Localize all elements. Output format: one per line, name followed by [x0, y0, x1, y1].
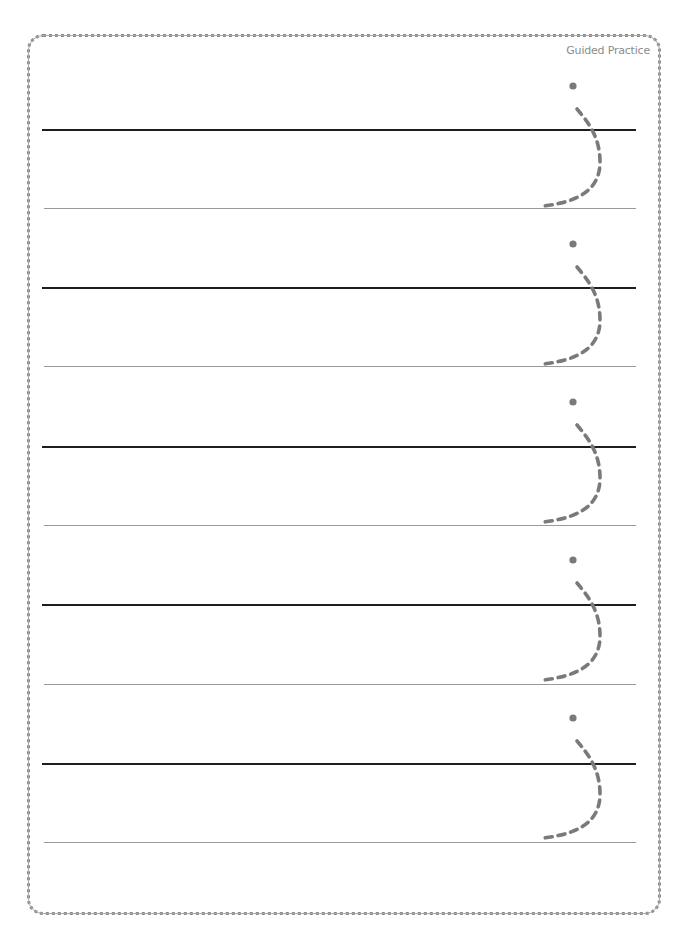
dashed-stroke	[544, 267, 600, 364]
start-dot	[569, 398, 576, 405]
start-dot	[569, 82, 576, 89]
start-dot	[569, 556, 576, 563]
practice-row	[0, 714, 673, 872]
letter-j-tracing-icon	[530, 556, 620, 690]
letter-j-tracing-icon	[530, 82, 620, 214]
worksheet-title: Guided Practice	[566, 44, 650, 57]
start-dot	[569, 240, 576, 247]
practice-row	[0, 556, 673, 714]
practice-row	[0, 398, 673, 556]
dashed-stroke	[544, 425, 600, 522]
dashed-stroke	[544, 109, 600, 206]
practice-row	[0, 240, 673, 398]
letter-j-tracing-icon	[530, 714, 620, 848]
dashed-stroke	[544, 741, 600, 838]
letter-j-tracing-icon	[530, 240, 620, 372]
start-dot	[569, 714, 576, 721]
dashed-stroke	[544, 583, 600, 680]
letter-j-tracing-icon	[530, 398, 620, 531]
practice-row	[0, 82, 673, 240]
